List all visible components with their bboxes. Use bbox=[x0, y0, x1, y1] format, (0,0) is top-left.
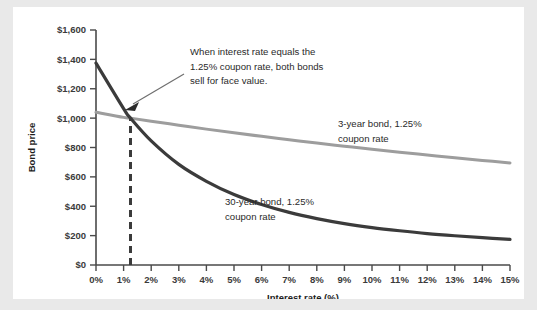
x-axis-tick-label: 1% bbox=[117, 274, 131, 285]
y-axis-tick-label: $1,000 bbox=[57, 113, 86, 124]
y-axis-tick-label: $200 bbox=[65, 230, 86, 241]
y-axis-tick-label: $1,400 bbox=[57, 54, 86, 65]
three-year-bond-label: 3-year bond, 1.25% bbox=[338, 118, 422, 129]
x-axis-tick-label: 10% bbox=[362, 274, 382, 285]
callout-leader-line bbox=[133, 74, 184, 104]
x-axis-title: Interest rate (%) bbox=[267, 292, 339, 299]
y-axis-tick-label: $800 bbox=[65, 142, 86, 153]
x-axis-tick-label: 15% bbox=[500, 274, 520, 285]
three-year-bond-line bbox=[96, 112, 510, 163]
y-axis-title: Bond price bbox=[26, 123, 37, 173]
y-axis-tick-label: $600 bbox=[65, 171, 86, 182]
callout-arrowhead bbox=[125, 102, 139, 111]
x-axis-tick-label: 5% bbox=[227, 274, 241, 285]
chart-panel: $0$200$400$600$800$1,000$1,200$1,400$1,6… bbox=[13, 7, 524, 299]
x-axis-tick-label: 11% bbox=[390, 274, 409, 285]
plot-area: $0$200$400$600$800$1,000$1,200$1,400$1,6… bbox=[26, 24, 520, 299]
x-axis-tick-label: 8% bbox=[310, 274, 324, 285]
x-axis-tick-label: 2% bbox=[144, 274, 158, 285]
callout-line: sell for face value. bbox=[190, 75, 267, 86]
x-axis-tick-label: 4% bbox=[200, 274, 214, 285]
x-axis-tick-label: 14% bbox=[473, 274, 493, 285]
callout-line: 1.25% coupon rate, both bonds bbox=[190, 61, 324, 72]
figure-container: $0$200$400$600$800$1,000$1,200$1,400$1,6… bbox=[0, 0, 537, 310]
y-axis-tick-label: $400 bbox=[65, 201, 86, 212]
three-year-bond-label: coupon rate bbox=[338, 133, 389, 144]
x-axis-tick-label: 12% bbox=[418, 274, 438, 285]
x-axis-tick-label: 9% bbox=[338, 274, 352, 285]
bond-price-line-chart: $0$200$400$600$800$1,000$1,200$1,400$1,6… bbox=[13, 7, 524, 299]
x-axis-tick-label: 6% bbox=[255, 274, 269, 285]
x-axis-tick-label: 3% bbox=[172, 274, 186, 285]
x-axis-tick-label: 0% bbox=[89, 274, 103, 285]
thirty-year-bond-label: 30-year bond, 1.25% bbox=[225, 196, 315, 207]
y-axis-tick-label: $1,200 bbox=[57, 83, 86, 94]
x-axis-tick-label: 13% bbox=[445, 274, 465, 285]
x-axis-tick-label: 7% bbox=[282, 274, 296, 285]
callout-line: When interest rate equals the bbox=[190, 46, 315, 57]
y-axis-tick-label: $1,600 bbox=[57, 24, 86, 35]
y-axis-tick-label: $0 bbox=[75, 259, 86, 270]
thirty-year-bond-label: coupon rate bbox=[225, 211, 276, 222]
